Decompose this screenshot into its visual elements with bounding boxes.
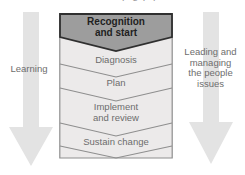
- down-arrow-icon: [188, 12, 234, 167]
- stage-label-recognition-and-start: Recognition and start: [59, 16, 173, 38]
- leading-managing-line-3: the people: [188, 67, 232, 78]
- stage-label-implement-and-review: Implement and review: [59, 102, 173, 123]
- leading-managing-label: Leading and managing the people issues: [176, 47, 245, 89]
- leading-managing-line-1: Leading and: [184, 46, 236, 57]
- stage-label-diagnosis: Diagnosis: [59, 55, 173, 66]
- stage-label-diagnosis-text: Diagnosis: [95, 54, 137, 65]
- stage-label-implement-line-2: and review: [93, 112, 139, 123]
- down-arrow-icon: [8, 12, 54, 167]
- stage-label-recognition-line-2: and start: [95, 27, 137, 38]
- cropped-heading-remnant: p g p p: [0, 0, 245, 7]
- stage-label-sustain-change: Sustain change: [59, 137, 173, 148]
- stage-label-plan: Plan: [59, 78, 173, 89]
- stage-label-sustain-change-text: Sustain change: [83, 136, 149, 147]
- learning-label-text: Learning: [11, 63, 48, 74]
- leading-managing-line-2: managing: [190, 57, 232, 68]
- leading-managing-arrow: [188, 12, 234, 167]
- stage-label-implement-line-1: Implement: [94, 101, 138, 112]
- change-process-funnel: Recognition and start Diagnosis Plan Imp…: [59, 13, 173, 159]
- cropped-heading-text: p g p p: [122, 0, 160, 1]
- change-process-diagram: p g p p Learning Leading and managing th…: [0, 0, 245, 175]
- learning-arrow: [8, 12, 54, 167]
- stage-label-plan-text: Plan: [106, 77, 125, 88]
- stage-label-recognition-line-1: Recognition: [87, 16, 145, 27]
- leading-managing-line-4: issues: [197, 78, 224, 89]
- learning-label: Learning: [0, 64, 58, 75]
